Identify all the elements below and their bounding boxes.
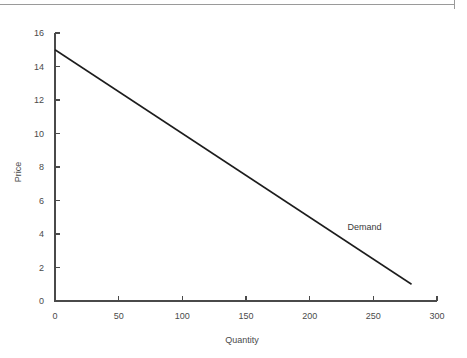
x-axis-title: Quantity xyxy=(225,335,259,345)
x-tick-label-0: 0 xyxy=(52,311,57,321)
x-tick-label-200: 200 xyxy=(302,311,317,321)
y-tick-label-4: 4 xyxy=(39,229,44,239)
y-tick-label-2: 2 xyxy=(39,263,44,273)
x-tick-label-100: 100 xyxy=(175,311,190,321)
y-axis-title: Price xyxy=(13,162,23,183)
y-tick-label-12: 12 xyxy=(34,95,44,105)
x-tick-label-150: 150 xyxy=(238,311,253,321)
y-tick-label-0: 0 xyxy=(39,296,44,306)
chart-page: 0246810121416 050100150200250300 Demand … xyxy=(0,0,467,358)
y-tick-label-10: 10 xyxy=(34,129,44,139)
demand-curve-chart: 0246810121416 050100150200250300 Demand … xyxy=(0,0,467,358)
y-tick-label-6: 6 xyxy=(39,196,44,206)
x-tick-label-250: 250 xyxy=(366,311,381,321)
y-tick-label-14: 14 xyxy=(34,62,44,72)
series-annotation-demand: Demand xyxy=(348,222,382,232)
x-tick-label-300: 300 xyxy=(429,311,444,321)
series-group: Demand xyxy=(55,50,412,285)
series-line-demand xyxy=(55,50,412,285)
axis-lines xyxy=(55,33,437,301)
x-axis-ticks: 050100150200250300 xyxy=(52,296,444,321)
y-tick-label-16: 16 xyxy=(34,28,44,38)
y-tick-label-8: 8 xyxy=(39,162,44,172)
x-tick-label-50: 50 xyxy=(114,311,124,321)
y-axis-ticks: 0246810121416 xyxy=(34,28,60,306)
